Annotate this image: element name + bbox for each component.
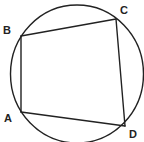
vertex-label-a: A <box>4 112 12 124</box>
edge-da <box>21 112 125 126</box>
edge-cd <box>116 19 125 126</box>
cyclic-quadrilateral-diagram: A B C D <box>0 0 144 142</box>
vertex-label-c: C <box>120 4 128 16</box>
edge-bc <box>21 19 116 36</box>
vertex-label-d: D <box>129 128 137 140</box>
vertex-label-b: B <box>3 24 11 36</box>
